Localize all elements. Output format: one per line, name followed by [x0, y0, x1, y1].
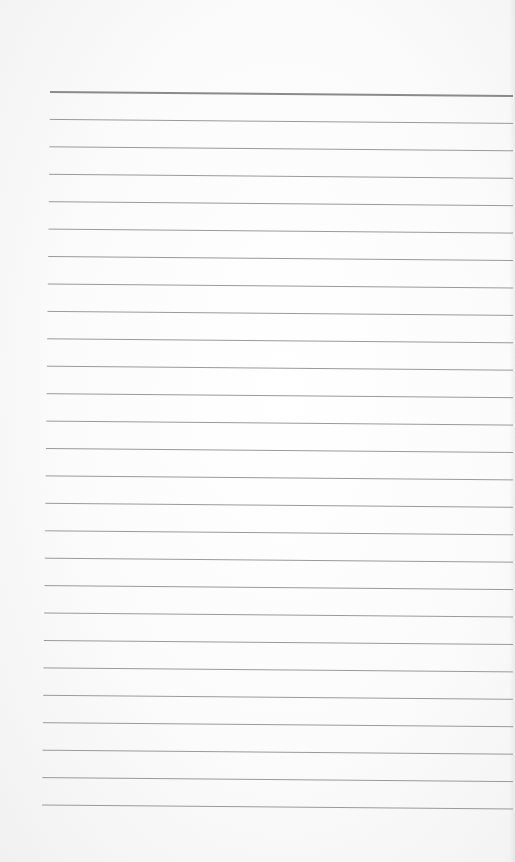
page-edge-shadow	[509, 0, 515, 862]
rule-line	[49, 147, 513, 151]
rule-line	[43, 750, 513, 754]
rule-line	[45, 558, 513, 562]
rule-line	[43, 695, 513, 699]
rule-line	[49, 202, 513, 206]
rule-line	[49, 174, 513, 178]
rule-line	[45, 503, 513, 507]
rule-line	[50, 119, 513, 123]
rule-line	[43, 723, 513, 727]
rule-line	[48, 311, 514, 315]
rule-line	[49, 229, 514, 233]
header-rule-line	[50, 92, 513, 96]
rule-line	[44, 668, 514, 672]
rule-line	[46, 476, 513, 480]
rule-line	[44, 613, 513, 617]
rule-line	[45, 531, 513, 535]
ruled-lines	[0, 0, 515, 862]
rule-line	[48, 257, 513, 261]
rule-line	[47, 366, 513, 370]
rule-line	[46, 421, 513, 425]
rule-line	[44, 641, 513, 645]
ruled-paper-page	[0, 0, 515, 862]
rule-line	[47, 339, 513, 343]
rule-line	[47, 394, 513, 398]
rule-line	[45, 586, 514, 590]
rule-line	[46, 449, 513, 453]
rule-line	[48, 284, 513, 288]
rule-line	[42, 778, 513, 782]
rule-line	[42, 805, 513, 809]
